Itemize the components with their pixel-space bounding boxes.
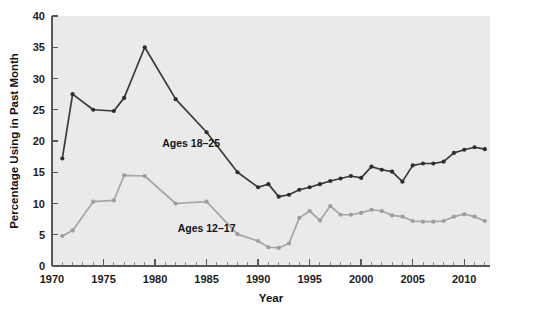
y-axis-tick-label: 25 <box>33 104 45 116</box>
y-axis-tick-label: 35 <box>33 41 45 53</box>
data-point <box>462 212 466 216</box>
x-axis-tick-label: 1990 <box>246 273 270 285</box>
y-axis-tick-labels: 0510152025303540 <box>33 10 45 272</box>
x-axis-tick-label: 2000 <box>349 273 373 285</box>
data-point <box>328 204 332 208</box>
data-point <box>266 245 270 249</box>
data-point <box>411 163 415 167</box>
data-point <box>60 234 64 238</box>
data-point <box>256 239 260 243</box>
series-inline-label: Ages 12–17 <box>178 222 236 234</box>
data-point <box>112 198 116 202</box>
x-axis-tick-label: 1970 <box>40 273 64 285</box>
data-point <box>91 108 95 112</box>
x-axis-tick-labels: 197019751980198519901995200020052010 <box>40 273 477 285</box>
data-point <box>369 165 373 169</box>
data-point <box>390 170 394 174</box>
data-point <box>462 148 466 152</box>
data-point <box>112 109 116 113</box>
y-axis-tick-label: 15 <box>33 166 45 178</box>
data-point <box>421 161 425 165</box>
data-point <box>308 185 312 189</box>
data-point <box>380 168 384 172</box>
data-point <box>71 228 75 232</box>
data-point <box>411 219 415 223</box>
data-point <box>472 145 476 149</box>
y-axis-title: Percentage Using in Past Month <box>8 53 20 229</box>
y-axis-tick-label: 40 <box>33 10 45 22</box>
data-point <box>297 216 301 220</box>
data-point <box>472 215 476 219</box>
data-point <box>277 195 281 199</box>
series-inline-label: Ages 18–25 <box>162 137 220 149</box>
data-point <box>71 92 75 96</box>
plot-background <box>52 16 490 266</box>
data-point <box>297 188 301 192</box>
data-point <box>318 218 322 222</box>
x-axis-tick-label: 1980 <box>143 273 167 285</box>
x-axis-title: Year <box>259 292 284 304</box>
data-point <box>349 174 353 178</box>
data-point <box>400 180 404 184</box>
data-point <box>277 246 281 250</box>
data-point <box>442 219 446 223</box>
y-axis-tick-label: 20 <box>33 135 45 147</box>
data-point <box>122 173 126 177</box>
data-point <box>338 213 342 217</box>
x-axis-tick-label: 2010 <box>452 273 476 285</box>
x-axis-tick-label: 1985 <box>194 273 218 285</box>
data-point <box>338 176 342 180</box>
data-point <box>266 182 270 186</box>
data-point <box>235 170 239 174</box>
y-axis-tick-label: 30 <box>33 73 45 85</box>
data-point <box>442 160 446 164</box>
data-point <box>60 156 64 160</box>
data-point <box>174 97 178 101</box>
data-point <box>235 232 239 236</box>
data-point <box>359 176 363 180</box>
y-axis-tick-label: 5 <box>39 229 45 241</box>
data-point <box>452 151 456 155</box>
data-point <box>204 200 208 204</box>
data-point <box>122 96 126 100</box>
data-point <box>143 45 147 49</box>
data-point <box>431 220 435 224</box>
data-point <box>400 215 404 219</box>
x-axis-tick-label: 1975 <box>91 273 115 285</box>
data-point <box>421 220 425 224</box>
data-point <box>256 185 260 189</box>
data-point <box>380 209 384 213</box>
data-point <box>328 179 332 183</box>
data-point <box>143 174 147 178</box>
data-point <box>483 219 487 223</box>
data-point <box>359 211 363 215</box>
data-point <box>483 147 487 151</box>
data-point <box>308 209 312 213</box>
data-point <box>431 161 435 165</box>
x-axis-tick-label: 2005 <box>400 273 424 285</box>
data-point <box>369 208 373 212</box>
data-point <box>204 130 208 134</box>
data-point <box>287 193 291 197</box>
data-point <box>287 241 291 245</box>
x-axis-tick-label: 1995 <box>297 273 321 285</box>
data-point <box>91 200 95 204</box>
line-chart: 0510152025303540 19701975198019851990199… <box>0 0 533 313</box>
y-axis-tick-label: 0 <box>39 260 45 272</box>
data-point <box>452 215 456 219</box>
data-point <box>390 213 394 217</box>
chart-container: 0510152025303540 19701975198019851990199… <box>0 0 533 313</box>
y-axis-tick-label: 10 <box>33 198 45 210</box>
data-point <box>349 213 353 217</box>
data-point <box>174 201 178 205</box>
data-point <box>318 182 322 186</box>
